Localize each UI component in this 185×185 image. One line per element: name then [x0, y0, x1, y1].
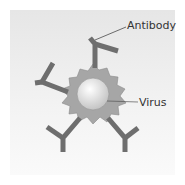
- virus-label: Virus: [139, 96, 167, 109]
- virus-particle: [77, 78, 109, 110]
- antibody-label: Antibody: [127, 19, 176, 32]
- antibody-leader-line: [95, 27, 126, 40]
